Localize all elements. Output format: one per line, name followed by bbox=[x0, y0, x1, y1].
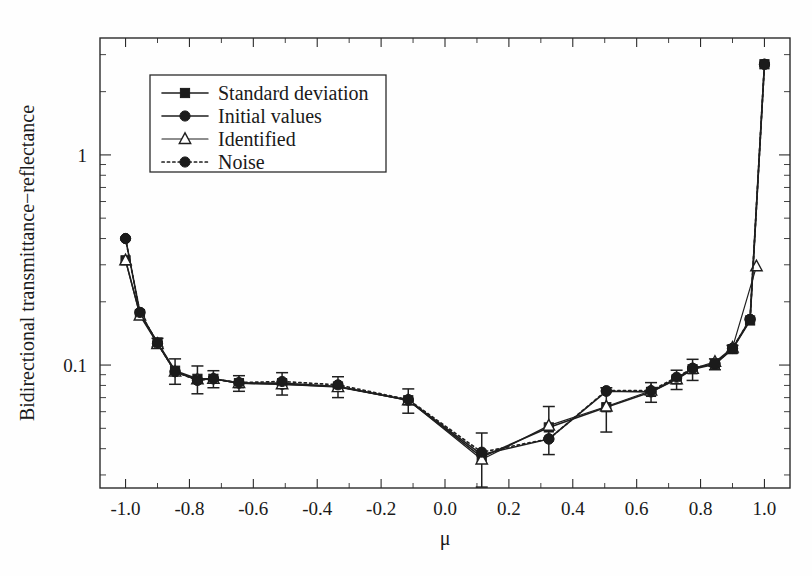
data-point-marker bbox=[234, 378, 244, 388]
chart-svg: -1.0-0.8-0.6-0.4-0.20.00.20.40.60.81.010… bbox=[0, 0, 812, 576]
data-point-marker bbox=[135, 307, 145, 317]
data-point-marker bbox=[477, 447, 487, 457]
data-point-marker bbox=[277, 376, 287, 386]
data-point-marker bbox=[601, 386, 611, 396]
x-tick-label: 1.0 bbox=[753, 498, 777, 519]
legend-label: Standard deviation bbox=[218, 82, 369, 104]
x-tick-label: 0.0 bbox=[433, 498, 457, 519]
legend-label: Identified bbox=[218, 128, 296, 150]
data-point-marker bbox=[759, 59, 769, 69]
data-point-marker bbox=[208, 374, 218, 384]
data-point-marker bbox=[170, 367, 180, 377]
data-point-marker bbox=[727, 343, 737, 353]
y-tick-label: 1 bbox=[78, 145, 88, 166]
x-tick-label: -0.8 bbox=[174, 498, 204, 519]
y-axis-title: Bidirectional transmittance−reflectance bbox=[16, 105, 38, 421]
x-tick-label: 0.8 bbox=[689, 498, 713, 519]
data-point-marker bbox=[152, 338, 162, 348]
legend-marker-square bbox=[180, 88, 189, 97]
x-tick-label: -1.0 bbox=[111, 498, 141, 519]
x-axis-title: μ bbox=[440, 527, 451, 550]
legend-marker-circle bbox=[180, 111, 190, 121]
legend-layer: Standard deviationInitial valuesIdentifi… bbox=[150, 75, 386, 173]
legend-marker-circle bbox=[180, 157, 190, 167]
chart-figure: -1.0-0.8-0.6-0.4-0.20.00.20.40.60.81.010… bbox=[0, 0, 812, 576]
legend-label: Initial values bbox=[218, 105, 322, 127]
data-point-marker bbox=[646, 386, 656, 396]
legend-label: Noise bbox=[218, 151, 265, 173]
x-tick-label: 0.4 bbox=[561, 498, 585, 519]
data-point-marker bbox=[544, 434, 554, 444]
x-tick-label: 0.2 bbox=[497, 498, 521, 519]
x-tick-label: 0.6 bbox=[625, 498, 649, 519]
data-point-marker bbox=[333, 380, 343, 390]
chart-background bbox=[0, 0, 812, 576]
data-point-marker bbox=[710, 359, 720, 369]
data-point-marker bbox=[192, 375, 202, 385]
y-tick-label: 0.1 bbox=[63, 355, 87, 376]
data-point-marker bbox=[745, 314, 755, 324]
x-tick-label: -0.6 bbox=[238, 498, 268, 519]
data-point-marker bbox=[687, 363, 697, 373]
x-tick-label: -0.4 bbox=[302, 498, 333, 519]
data-point-marker bbox=[671, 372, 681, 382]
data-point-marker bbox=[403, 394, 413, 404]
data-point-marker bbox=[120, 233, 130, 243]
x-tick-label: -0.2 bbox=[366, 498, 396, 519]
